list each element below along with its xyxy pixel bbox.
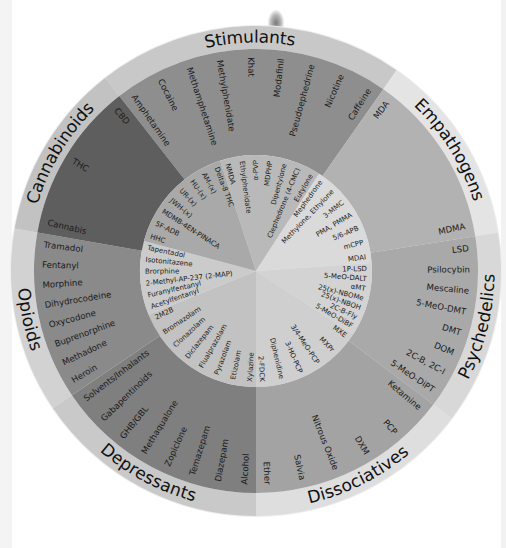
- novel-substance-2-fdck: 2-FDCK: [257, 356, 266, 383]
- substance-lsd: LSD: [451, 243, 469, 255]
- substance-alcohol: Alcohol: [239, 453, 251, 485]
- novel-substance-xylazine: Xylazine: [246, 352, 256, 382]
- substance-ether: Ether: [261, 461, 272, 485]
- novel-substance-brorphine: Brorphine: [145, 267, 179, 275]
- substance-psilocybin: Psilocybin: [427, 264, 470, 274]
- novel-substance-1p-lsd: 1P-LSD: [342, 265, 367, 273]
- substance-fentanyl: Fentanyl: [42, 260, 79, 271]
- substance-khat: Khat: [246, 57, 257, 78]
- drug-classification-wheel: StimulantsAmphetamineCocaineMethamphetam…: [0, 0, 506, 548]
- novel-substance-pvp: α-PVP: [252, 160, 260, 180]
